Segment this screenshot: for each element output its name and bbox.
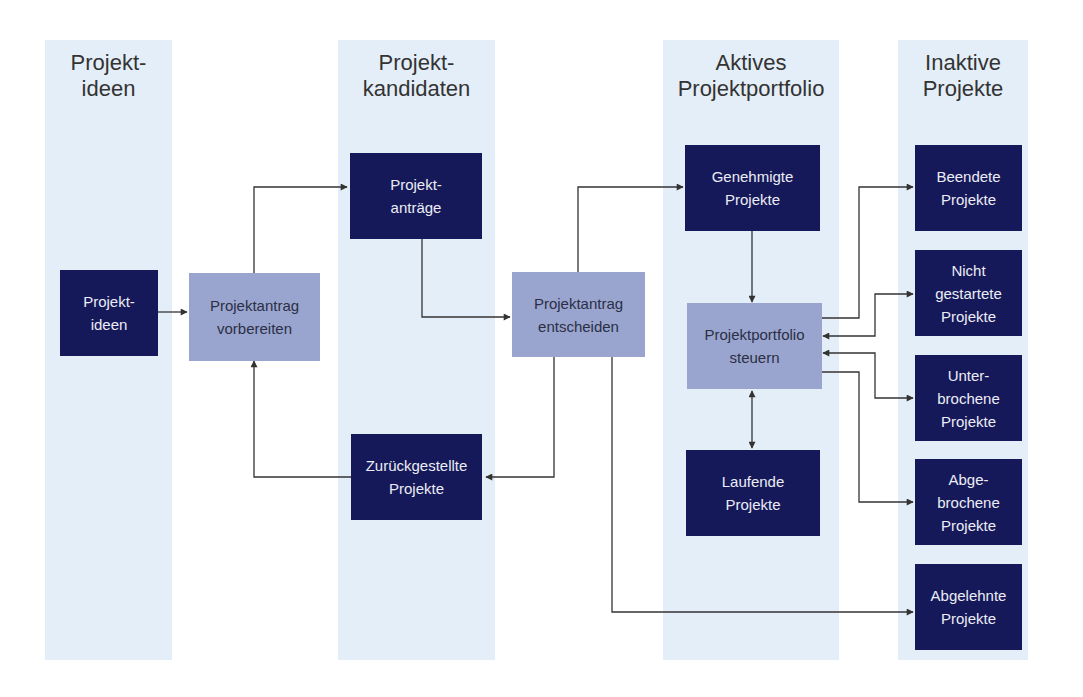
- node-laufende-projekte: Laufende Projekte: [686, 450, 820, 536]
- node-projektantrag-vorbereiten: Projektantrag vorbereiten: [189, 273, 320, 361]
- arrow-vorbereiten-to-antraege: [254, 187, 347, 273]
- arrow-entscheiden-to-zurueckgestellte: [486, 357, 554, 477]
- arrow-antraege-to-entscheiden: [422, 238, 510, 317]
- node-abgelehnte-projekte: Abgelehnte Projekte: [915, 564, 1022, 650]
- node-unterbrochene-projekte: Unter- brochene Projekte: [915, 355, 1022, 441]
- arrow-steuern-unterbrochene: [823, 353, 913, 398]
- arrow-steuern-to-beendete: [822, 187, 913, 318]
- arrow-zurueckgestellte-to-vorbereiten: [254, 361, 351, 477]
- arrow-steuern-nichtgestartete: [823, 294, 913, 336]
- node-projektportfolio-steuern: Projektportfolio steuern: [687, 303, 822, 389]
- node-projektantrag-entscheiden: Projektantrag entscheiden: [512, 272, 645, 357]
- node-abgebrochene-projekte: Abge- brochene Projekte: [915, 459, 1022, 545]
- node-beendete-projekte: Beendete Projekte: [915, 145, 1022, 231]
- node-projektideen: Projekt- ideen: [60, 270, 158, 356]
- arrow-entscheiden-to-genehmigte: [578, 187, 683, 272]
- node-zurueckgestellte-projekte: Zurückgestellte Projekte: [351, 434, 482, 520]
- arrow-steuern-to-abgebrochene: [822, 372, 913, 502]
- node-genehmigte-projekte: Genehmigte Projekte: [685, 145, 820, 231]
- node-nicht-gestartete-projekte: Nicht gestartete Projekte: [915, 250, 1022, 336]
- node-projektantraege: Projekt- anträge: [350, 153, 482, 239]
